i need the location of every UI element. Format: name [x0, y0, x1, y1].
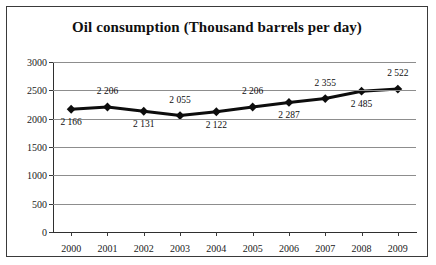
gridline-3000	[53, 62, 416, 63]
x-axis-tick-label: 2000	[61, 243, 81, 254]
x-axis-tick-label: 2007	[315, 243, 335, 254]
y-axis-tick-label: 3000	[27, 57, 47, 68]
data-point-marker	[139, 107, 148, 116]
y-axis-tick-mark	[49, 90, 53, 91]
x-axis-tick-label: 2008	[352, 243, 372, 254]
x-axis-tick-mark	[398, 232, 399, 236]
data-point-marker	[393, 85, 402, 94]
data-point-marker	[248, 103, 257, 112]
gridline-1000	[53, 175, 416, 176]
data-point-label: 2 522	[387, 68, 408, 78]
y-axis-tick-mark	[49, 204, 53, 205]
gridline-2000	[53, 119, 416, 120]
chart-frame: Oil consumption (Thousand barrels per da…	[6, 6, 428, 257]
data-point-label: 2 131	[133, 119, 154, 129]
data-point-label: 2 206	[242, 86, 263, 96]
data-point-marker	[285, 98, 294, 107]
data-point-marker	[212, 107, 221, 116]
y-axis-tick-label: 1500	[27, 142, 47, 153]
x-axis-tick-mark	[180, 232, 181, 236]
data-point-label: 2 055	[169, 95, 190, 105]
y-axis-tick-label: 500	[32, 198, 47, 209]
y-axis-tick-mark	[49, 175, 53, 176]
x-axis-tick-mark	[289, 232, 290, 236]
data-point-marker	[321, 94, 330, 103]
data-point-label: 2 485	[351, 99, 372, 109]
data-point-marker	[103, 103, 112, 112]
y-axis-tick-label: 1000	[27, 170, 47, 181]
data-point-label: 2 287	[278, 110, 299, 120]
x-axis-tick-mark	[362, 232, 363, 236]
data-point-marker	[67, 105, 76, 114]
x-axis-tick-label: 2009	[388, 243, 408, 254]
gridline-1500	[53, 147, 416, 148]
data-point-label: 2 166	[60, 117, 81, 127]
y-axis-tick-label: 0	[42, 227, 47, 238]
plot-area: 0500100015002000250030002000200120022003…	[53, 62, 416, 232]
x-axis-tick-label: 2002	[134, 243, 154, 254]
y-axis-tick-mark	[49, 119, 53, 120]
x-axis-tick-mark	[144, 232, 145, 236]
x-axis-tick-label: 2005	[243, 243, 263, 254]
y-axis-tick-label: 2000	[27, 113, 47, 124]
data-point-label: 2 206	[97, 86, 118, 96]
x-axis-tick-label: 2001	[97, 243, 117, 254]
x-axis-tick-mark	[325, 232, 326, 236]
x-axis-tick-label: 2006	[279, 243, 299, 254]
chart-title: Oil consumption (Thousand barrels per da…	[7, 19, 427, 36]
y-axis-tick-mark	[49, 62, 53, 63]
gridline-500	[53, 204, 416, 205]
data-point-label: 2 355	[315, 78, 336, 88]
x-axis-tick-label: 2003	[170, 243, 190, 254]
series-line	[71, 89, 398, 115]
x-axis-tick-label: 2004	[206, 243, 226, 254]
y-axis-tick-mark	[49, 147, 53, 148]
y-axis-tick-label: 2500	[27, 85, 47, 96]
data-point-label: 2 122	[206, 120, 227, 130]
x-axis-tick-mark	[71, 232, 72, 236]
x-axis-tick-mark	[216, 232, 217, 236]
x-axis-tick-mark	[253, 232, 254, 236]
x-axis-tick-mark	[107, 232, 108, 236]
y-axis-tick-mark	[49, 232, 53, 233]
